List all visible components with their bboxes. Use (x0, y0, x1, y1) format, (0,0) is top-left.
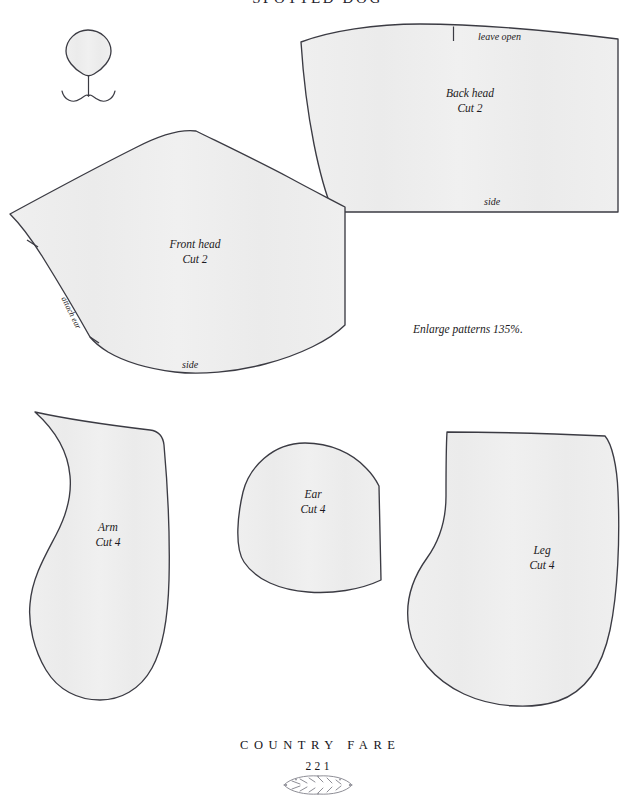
label-back-head-side: side (484, 196, 500, 209)
label-front-head-side: side (182, 359, 198, 372)
footer-section-title: COUNTRY FARE (0, 738, 635, 753)
label-ear: Ear Cut 4 (283, 487, 343, 516)
back-head-outline (301, 24, 618, 212)
piece-arm[interactable] (30, 412, 170, 700)
mouth-curve-left (62, 91, 89, 101)
label-back-head: Back head Cut 2 (415, 86, 525, 115)
label-arm: Arm Cut 4 (78, 520, 138, 549)
label-front-head: Front head Cut 2 (140, 237, 250, 266)
label-back-head-leave-open: leave open (478, 31, 521, 44)
label-enlarge-note: Enlarge patterns 135%. (413, 322, 523, 337)
label-leg: Leg Cut 4 (512, 543, 572, 572)
pattern-page: SPOTTED DOG (0, 0, 635, 796)
mouth-curve-right (89, 91, 116, 101)
piece-ear[interactable] (238, 443, 381, 593)
ear-outline (238, 443, 381, 593)
piece-back-head[interactable] (301, 24, 618, 212)
footer-page-number: 221 (0, 760, 635, 772)
pattern-sheet (0, 0, 635, 796)
arm-outline (30, 412, 170, 700)
nose-shape (66, 30, 111, 76)
nose-mouth-guide (62, 30, 115, 101)
